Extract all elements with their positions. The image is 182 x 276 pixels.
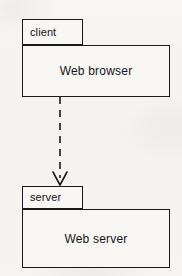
package-client-tab-label: client [23,27,56,38]
package-server-body-label: Web server [64,233,127,245]
package-client-body[interactable]: Web browser [22,45,170,97]
package-server-tab[interactable]: server [22,186,83,209]
package-server-body[interactable]: Web server [22,209,170,268]
diagram-canvas: Web browser client Web server server [0,0,182,276]
package-client-tab[interactable]: client [22,19,83,45]
package-server-tab-label: server [23,192,61,203]
package-client-body-label: Web browser [60,65,133,77]
dependency-arrowhead-icon [53,172,67,185]
